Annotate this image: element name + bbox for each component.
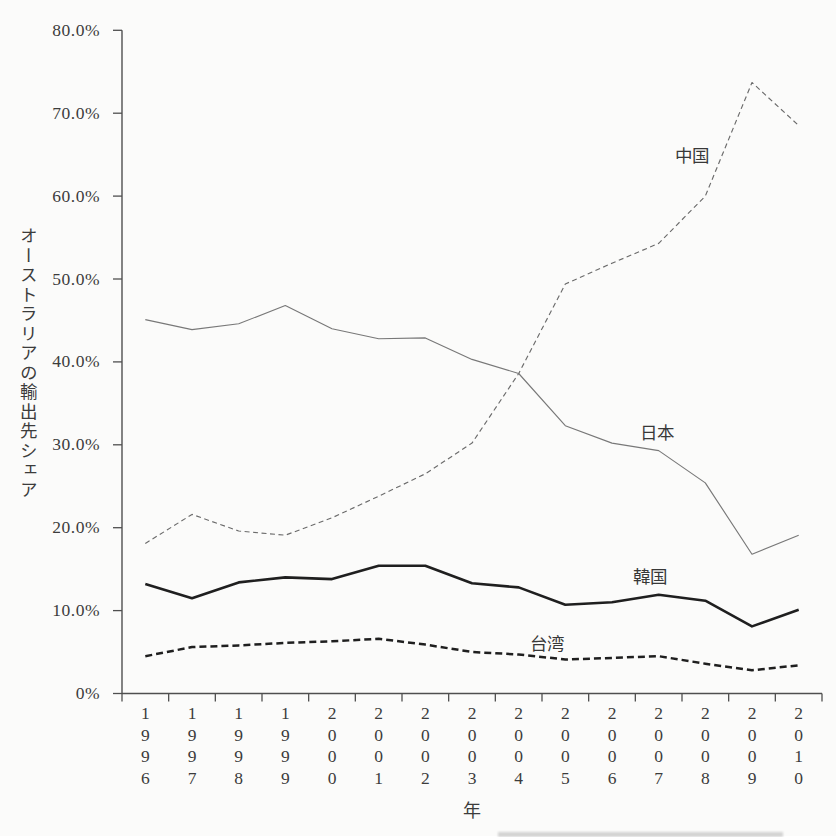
cropped-caption-artifact <box>498 832 783 837</box>
y-tick-label-40: 40.0% <box>26 351 100 372</box>
x-tick-label-2005: 2005 <box>558 703 573 789</box>
y-tick-label-0: 0% <box>26 683 100 704</box>
x-tick-label-2002: 2002 <box>418 703 433 789</box>
series-label-china: 中国 <box>656 142 728 167</box>
x-tick-label-2006: 2006 <box>605 703 620 789</box>
x-tick-label-1996: 1996 <box>138 703 153 789</box>
series-label-japan: 日本 <box>621 419 693 444</box>
series-line-japan <box>145 306 798 555</box>
x-tick-label-2004: 2004 <box>511 703 526 789</box>
x-tick-label-2007: 2007 <box>651 703 666 789</box>
x-tick-label-1998: 1998 <box>231 703 246 789</box>
series-label-taiwan: 台湾 <box>511 630 583 655</box>
x-tick-label-2000: 2000 <box>325 703 340 789</box>
x-tick-label-1997: 1997 <box>185 703 200 789</box>
series-line-taiwan <box>145 639 798 671</box>
series-label-korea: 韓国 <box>614 563 686 588</box>
x-tick-label-1999: 1999 <box>278 703 293 789</box>
y-tick-label-60: 60.0% <box>26 186 100 207</box>
y-tick-label-50: 50.0% <box>26 269 100 290</box>
x-tick-label-2008: 2008 <box>698 703 713 789</box>
y-tick-label-20: 20.0% <box>26 517 100 538</box>
x-tick-label-2001: 2001 <box>371 703 386 789</box>
x-tick-label-2010: 2010 <box>791 703 806 789</box>
x-tick-label-2003: 2003 <box>465 703 480 789</box>
x-axis-title: 年 <box>441 796 503 822</box>
y-tick-label-10: 10.0% <box>26 600 100 621</box>
x-tick-label-2009: 2009 <box>745 703 760 789</box>
series-line-korea <box>145 566 798 627</box>
y-tick-label-80: 80.0% <box>26 20 100 41</box>
y-tick-label-70: 70.0% <box>26 103 100 124</box>
y-tick-label-30: 30.0% <box>26 434 100 455</box>
